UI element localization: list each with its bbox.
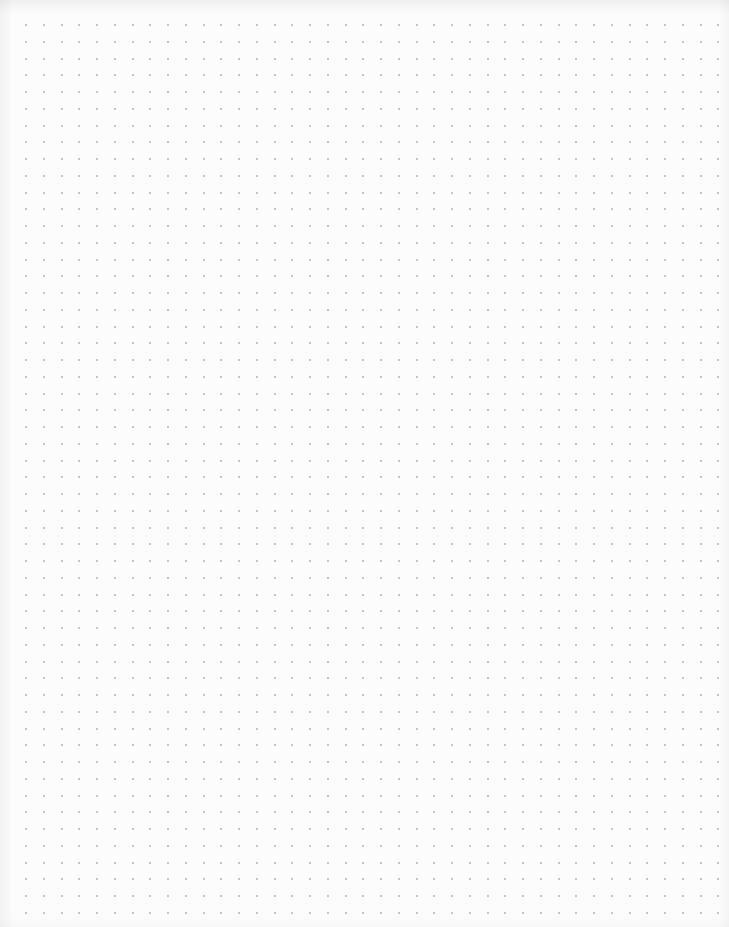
- grid-dot: [220, 862, 222, 864]
- grid-dot: [274, 259, 276, 261]
- grid-dot: [593, 141, 595, 143]
- grid-dot: [522, 711, 524, 713]
- grid-dot: [362, 460, 364, 462]
- grid-dot: [256, 443, 258, 445]
- grid-dot: [398, 460, 400, 462]
- grid-dot: [96, 108, 98, 110]
- grid-dot: [504, 208, 506, 210]
- grid-dot: [451, 242, 453, 244]
- grid-dot: [398, 661, 400, 663]
- grid-dot: [575, 225, 577, 227]
- grid-dot: [717, 493, 719, 495]
- grid-dot: [274, 778, 276, 780]
- grid-dot: [504, 460, 506, 462]
- grid-dot: [593, 175, 595, 177]
- grid-dot: [593, 259, 595, 261]
- grid-dot: [611, 58, 613, 60]
- grid-dot: [43, 125, 45, 127]
- grid-dot: [522, 24, 524, 26]
- grid-dot: [504, 58, 506, 60]
- grid-dot: [132, 728, 134, 730]
- grid-dot: [646, 677, 648, 679]
- grid-dot: [362, 476, 364, 478]
- grid-dot: [185, 393, 187, 395]
- grid-dot: [717, 175, 719, 177]
- grid-dot: [274, 158, 276, 160]
- grid-dot: [132, 778, 134, 780]
- grid-dot: [611, 41, 613, 43]
- grid-dot: [96, 543, 98, 545]
- grid-dot: [345, 744, 347, 746]
- grid-dot: [203, 342, 205, 344]
- grid-dot: [575, 543, 577, 545]
- grid-dot: [203, 393, 205, 395]
- grid-dot: [345, 610, 347, 612]
- grid-dot: [558, 259, 560, 261]
- grid-dot: [78, 761, 80, 763]
- grid-dot: [611, 359, 613, 361]
- grid-dot: [575, 862, 577, 864]
- grid-dot: [469, 476, 471, 478]
- grid-dot: [345, 577, 347, 579]
- grid-dot: [700, 24, 702, 26]
- grid-dot: [274, 644, 276, 646]
- grid-dot: [114, 393, 116, 395]
- grid-dot: [646, 577, 648, 579]
- grid-dot: [345, 862, 347, 864]
- grid-dot: [362, 845, 364, 847]
- grid-dot: [717, 242, 719, 244]
- grid-dot: [629, 493, 631, 495]
- grid-dot: [451, 845, 453, 847]
- grid-dot: [593, 74, 595, 76]
- grid-dot: [362, 292, 364, 294]
- grid-dot: [309, 326, 311, 328]
- grid-dot: [664, 610, 666, 612]
- grid-dot: [345, 74, 347, 76]
- grid-dot: [398, 326, 400, 328]
- grid-dot: [25, 577, 27, 579]
- grid-dot: [611, 225, 613, 227]
- grid-dot: [717, 728, 719, 730]
- grid-dot: [646, 275, 648, 277]
- grid-dot: [416, 108, 418, 110]
- grid-dot: [416, 443, 418, 445]
- grid-dot: [132, 125, 134, 127]
- grid-dot: [78, 158, 80, 160]
- grid-dot: [558, 359, 560, 361]
- grid-dot: [167, 677, 169, 679]
- grid-dot: [469, 292, 471, 294]
- grid-dot: [291, 795, 293, 797]
- grid-dot: [327, 175, 329, 177]
- grid-dot: [433, 460, 435, 462]
- grid-dot: [717, 694, 719, 696]
- grid-dot: [362, 192, 364, 194]
- grid-dot: [25, 192, 27, 194]
- grid-dot: [167, 192, 169, 194]
- grid-dot: [487, 259, 489, 261]
- grid-dot: [664, 175, 666, 177]
- grid-dot: [611, 577, 613, 579]
- grid-dot: [611, 594, 613, 596]
- grid-dot: [629, 711, 631, 713]
- grid-dot: [469, 795, 471, 797]
- grid-dot: [220, 326, 222, 328]
- grid-dot: [291, 443, 293, 445]
- grid-dot: [220, 275, 222, 277]
- grid-dot: [522, 326, 524, 328]
- grid-dot: [274, 225, 276, 227]
- grid-dot: [43, 158, 45, 160]
- grid-dot: [309, 594, 311, 596]
- grid-dot: [398, 359, 400, 361]
- grid-dot: [220, 828, 222, 830]
- grid-dot: [611, 912, 613, 914]
- grid-dot: [43, 577, 45, 579]
- grid-dot: [451, 208, 453, 210]
- grid-dot: [451, 527, 453, 529]
- grid-dot: [43, 376, 45, 378]
- grid-dot: [717, 661, 719, 663]
- grid-dot: [504, 577, 506, 579]
- grid-dot: [664, 58, 666, 60]
- grid-dot: [132, 862, 134, 864]
- grid-dot: [380, 795, 382, 797]
- grid-dot: [433, 426, 435, 428]
